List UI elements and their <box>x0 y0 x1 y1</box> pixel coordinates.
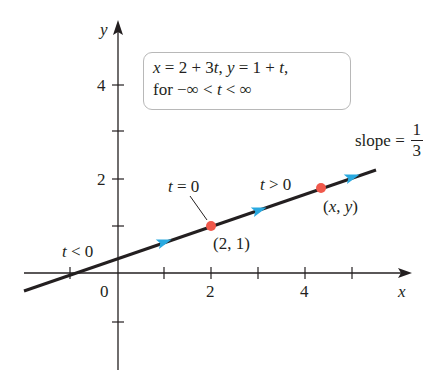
eq-text: , <box>284 58 288 77</box>
eq-text: = 1 + <box>235 58 280 77</box>
t-zero-label: t = 0 <box>168 177 199 196</box>
equation-line-1: x = 2 + 3t, y = 1 + t, <box>153 57 350 79</box>
eq-text: for −∞ < <box>153 80 217 99</box>
x-tick-label-0: 0 <box>100 282 109 301</box>
eq-text: , <box>218 58 227 77</box>
equation-line-2: for −∞ < t < ∞ <box>153 79 350 101</box>
x-tick-label-2: 2 <box>206 282 215 301</box>
y-axis-label: y <box>98 20 108 39</box>
y-tick-label-4: 4 <box>97 76 106 95</box>
point-2-1 <box>206 221 216 231</box>
t-positive-label: t > 0 <box>260 175 291 194</box>
point-x-y <box>316 183 326 193</box>
eq-var-x: x <box>153 58 161 77</box>
slope-text: slope = <box>355 131 405 151</box>
point-2-1-label: (2, 1) <box>213 234 250 253</box>
x-axis <box>24 267 412 279</box>
eq-text: = 2 + 3 <box>161 58 214 77</box>
slope-denominator: 3 <box>412 141 421 161</box>
t-negative-label: t < 0 <box>62 242 93 261</box>
eq-text: < ∞ <box>222 80 252 99</box>
t-zero-leader <box>190 196 207 220</box>
equation-box: x = 2 + 3t, y = 1 + t, for −∞ < t < ∞ <box>143 52 351 110</box>
slope-label: slope = 1 3 <box>355 120 423 161</box>
y-tick-label-2: 2 <box>97 170 106 189</box>
direction-arrow-icon <box>251 203 268 217</box>
point-x-y-label: (x, y) <box>323 197 358 216</box>
x-tick-label-4: 4 <box>300 282 309 301</box>
slope-fraction: 1 3 <box>411 120 423 161</box>
x-axis-label: x <box>397 282 406 301</box>
slope-numerator: 1 <box>412 120 421 140</box>
eq-var-y: y <box>227 58 235 77</box>
y-axis <box>112 20 124 370</box>
